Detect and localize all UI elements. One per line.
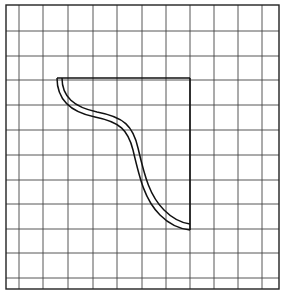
grid-drawing <box>0 0 283 296</box>
bracket-profile-shape <box>57 78 190 230</box>
shape-inner-curve <box>62 78 190 224</box>
grid <box>6 5 279 289</box>
diagram-canvas <box>0 0 283 296</box>
shape-outer-curve <box>57 78 190 230</box>
